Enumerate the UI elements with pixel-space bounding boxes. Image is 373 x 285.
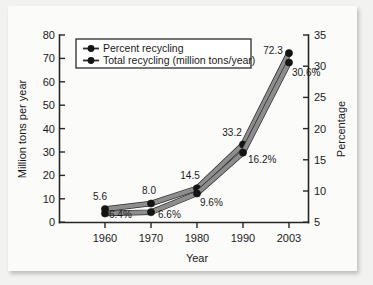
total-recycling-marker-1970 <box>147 200 154 207</box>
left-tick-label-80: 80 <box>43 29 55 41</box>
left-tick-label-50: 50 <box>43 99 55 111</box>
chart-card: 80 70 60 50 40 30 20 10 0 Million tons p… <box>8 6 357 271</box>
legend-label-percent-recycling: Percent recycling <box>103 42 184 54</box>
legend-label-total-recycling: Total recycling (million tons/year) <box>103 54 255 66</box>
point-label-total-1960: 5.6 <box>93 191 107 202</box>
point-label-total-1980: 14.5 <box>180 170 200 181</box>
right-tick-label-20: 20 <box>314 123 326 135</box>
series-total-recycling <box>101 50 292 213</box>
point-label-total-1970: 8.0 <box>142 185 156 196</box>
percent-recycling-marker-2003 <box>285 59 292 66</box>
recycling-line-chart: 80 70 60 50 40 30 20 10 0 Million tons p… <box>8 6 357 271</box>
x-axis-title: Year <box>186 252 209 264</box>
point-label-total-1990: 33.2 <box>222 127 242 138</box>
right-tick-label-15: 15 <box>314 154 326 166</box>
right-tick-label-10: 10 <box>314 185 326 197</box>
percent-recycling-marker-1960 <box>101 210 108 217</box>
left-tick-label-60: 60 <box>43 76 55 88</box>
left-tick-label-30: 30 <box>43 146 55 158</box>
left-tick-label-20: 20 <box>43 169 55 181</box>
right-axis: 35 30 25 20 15 10 5 Percentage <box>303 29 347 228</box>
point-label-percent-1970: 6.6% <box>158 209 181 220</box>
percent-recycling-point-labels: 6.4% 6.6% 9.6% 16.2% 30.6% <box>109 67 320 220</box>
x-tick-label-1970: 1970 <box>139 232 163 244</box>
percent-recycling-marker-1970 <box>147 209 154 216</box>
x-tick-label-1990: 1990 <box>231 232 255 244</box>
x-tick-label-1960: 1960 <box>93 232 117 244</box>
right-tick-label-5: 5 <box>314 216 320 228</box>
total-recycling-marker-2003 <box>285 50 292 57</box>
point-label-percent-1980: 9.6% <box>200 197 223 208</box>
x-tick-label-2003: 2003 <box>277 232 301 244</box>
legend-marker-percent-recycling <box>88 45 95 52</box>
legend-marker-total-recycling <box>88 57 95 64</box>
left-axis: 80 70 60 50 40 30 20 10 0 Million tons p… <box>16 29 65 228</box>
left-tick-label-10: 10 <box>43 193 55 205</box>
right-tick-label-35: 35 <box>314 29 326 41</box>
left-tick-label-0: 0 <box>49 216 55 228</box>
right-axis-title: Percentage <box>335 101 347 157</box>
left-tick-label-70: 70 <box>43 52 55 64</box>
left-axis-title: Million tons per year <box>16 79 28 178</box>
legend: Percent recycling Total recycling (milli… <box>76 39 255 68</box>
right-tick-label-25: 25 <box>314 91 326 103</box>
point-label-percent-2003: 30.6% <box>292 67 320 78</box>
point-label-total-2003: 72.3 <box>263 45 283 56</box>
point-label-percent-1990: 16.2% <box>248 154 276 165</box>
x-tick-label-1980: 1980 <box>185 232 209 244</box>
x-axis: 1960 1970 1980 1990 2003 Year <box>60 223 309 265</box>
point-label-percent-1960: 6.4% <box>109 209 132 220</box>
legend-entry-total-recycling: Total recycling (million tons/year) <box>83 54 255 66</box>
left-tick-label-40: 40 <box>43 123 55 135</box>
percent-recycling-marker-1990 <box>239 149 246 156</box>
series-percent-recycling <box>101 59 292 217</box>
